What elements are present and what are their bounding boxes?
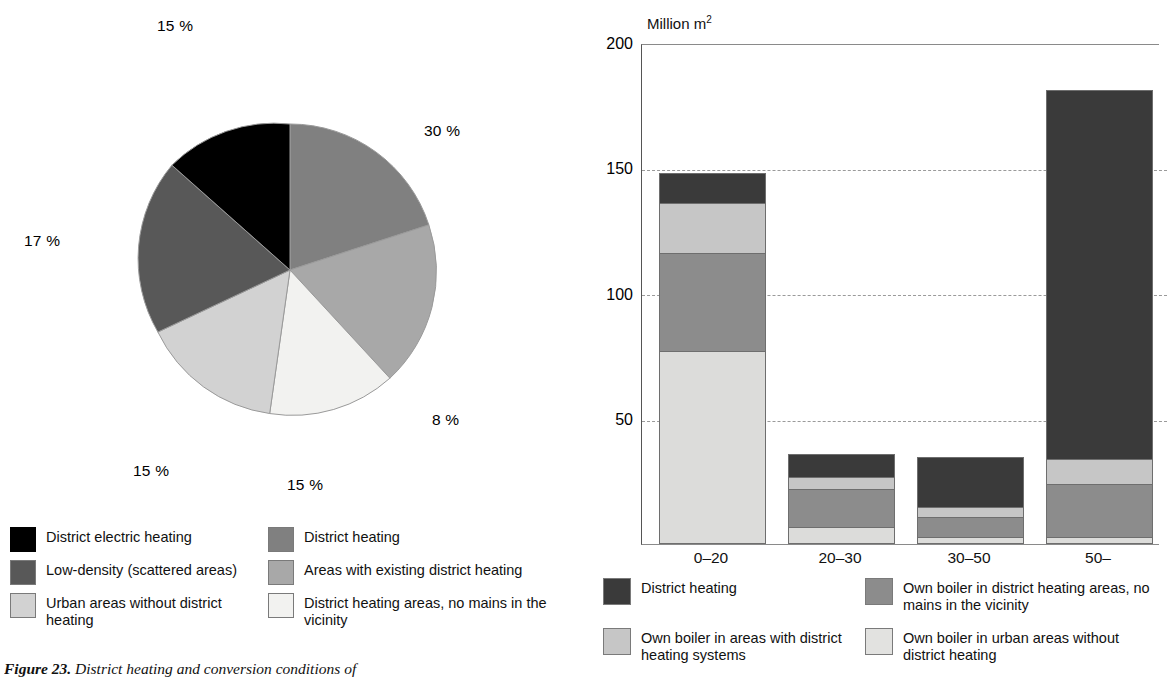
bar-segment-district-heating — [1046, 90, 1153, 459]
bar-segment-own-boiler-areas-with-dh — [917, 507, 1024, 517]
pie-chart-panel: 30 % 8 % 15 % 15 % 17 % 15 % District el… — [0, 0, 585, 680]
bar-0-20[interactable] — [659, 173, 766, 544]
bar-legend-label-own-boiler-areas-with-dh: Own boiler in areas with district heatin… — [641, 628, 865, 664]
y-tick-50: 50 — [585, 411, 633, 429]
y-axis-unit-superscript: 2 — [706, 14, 712, 25]
x-tick-20-30: 20–30 — [818, 549, 861, 567]
bar-segment-own-boiler-urban-no-dh — [1046, 537, 1153, 544]
y-axis-unit-text: Million m — [647, 15, 706, 32]
bar-segment-own-boiler-urban-no-dh — [659, 351, 766, 544]
pie-legend-item-urban-areas-without-district-heating[interactable]: Urban areas without district heating — [10, 593, 268, 629]
bar-chart-plot-area — [641, 44, 1159, 545]
bar-legend-swatch-own-boiler-urban-no-dh — [865, 628, 893, 655]
pie-legend-swatch-district-electric-heating — [10, 527, 36, 552]
pie-legend-swatch-low-density-scattered-areas — [10, 560, 36, 585]
bar-segment-own-boiler-areas-with-dh — [1046, 459, 1153, 484]
bar-legend-label-district-heating: District heating — [641, 578, 737, 597]
bar-segment-district-heating — [917, 457, 1024, 507]
bar-segment-own-boiler-urban-no-dh — [917, 537, 1024, 544]
pie-legend-swatch-district-heating-areas-no-mains — [268, 593, 294, 618]
bar-legend-label-own-boiler-urban-no-dh: Own boiler in urban areas without distri… — [903, 628, 1163, 664]
pie-label-8-percent: 8 % — [432, 411, 459, 429]
bar-legend-item-own-boiler-areas-with-dh[interactable]: Own boiler in areas with district heatin… — [603, 628, 865, 664]
pie-legend-label-urban-areas-without-district-heating: Urban areas without district heating — [46, 593, 268, 629]
pie-legend-item-areas-with-existing-district-heating[interactable]: Areas with existing district heating — [268, 560, 568, 585]
bar-segment-own-boiler-dh-areas-no-mains — [788, 489, 895, 527]
pie-legend-swatch-district-heating — [268, 527, 294, 552]
bar-legend-item-district-heating[interactable]: District heating — [603, 578, 865, 614]
bar-legend: District heating Own boiler in district … — [603, 578, 1163, 664]
pie-label-17-percent: 17 % — [24, 232, 60, 250]
pie-legend: District electric heating District heati… — [10, 527, 570, 629]
pie-legend-label-district-heating: District heating — [304, 527, 400, 546]
bar-legend-item-own-boiler-urban-no-dh[interactable]: Own boiler in urban areas without distri… — [865, 628, 1163, 664]
bar-30-50[interactable] — [917, 457, 1024, 544]
page-top-crop-artifact — [585, 0, 1167, 7]
y-tick-150: 150 — [585, 160, 633, 178]
x-tick-0-20: 0–20 — [694, 549, 728, 567]
pie-legend-item-district-heating-areas-no-mains[interactable]: District heating areas, no mains in the … — [268, 593, 568, 629]
pie-label-15-percent-electric: 15 % — [157, 17, 193, 35]
figure-caption-number: Figure 23. — [4, 660, 71, 677]
pie-label-30-percent: 30 % — [424, 122, 460, 140]
bar-segment-district-heating — [788, 454, 895, 477]
pie-legend-swatch-urban-areas-without-district-heating — [10, 593, 36, 618]
pie-legend-item-district-heating[interactable]: District heating — [268, 527, 568, 552]
y-tick-200: 200 — [585, 35, 633, 53]
bar-legend-swatch-district-heating — [603, 578, 631, 605]
bar-segment-district-heating — [659, 173, 766, 203]
pie-label-15-percent-urban: 15 % — [133, 462, 169, 480]
pie-chart: 30 % 8 % 15 % 15 % 17 % 15 % — [0, 0, 585, 520]
pie-chart-svg — [0, 0, 585, 520]
bar-20-30[interactable] — [788, 454, 895, 544]
pie-legend-label-district-heating-areas-no-mains: District heating areas, no mains in the … — [304, 593, 568, 629]
bar-segment-own-boiler-dh-areas-no-mains — [659, 253, 766, 351]
pie-legend-item-district-electric-heating[interactable]: District electric heating — [10, 527, 268, 552]
bar-segment-own-boiler-areas-with-dh — [788, 477, 895, 489]
x-tick-50-plus: 50– — [1085, 549, 1111, 567]
pie-legend-swatch-areas-with-existing-district-heating — [268, 560, 294, 585]
pie-legend-label-areas-with-existing-district-heating: Areas with existing district heating — [304, 560, 522, 579]
x-tick-30-50: 30–50 — [947, 549, 990, 567]
bar-segment-own-boiler-dh-areas-no-mains — [917, 517, 1024, 537]
bar-segment-own-boiler-urban-no-dh — [788, 527, 895, 544]
bar-legend-swatch-own-boiler-areas-with-dh — [603, 628, 631, 655]
bar-50-plus[interactable] — [1046, 90, 1153, 544]
pie-label-15-percent-no-mains: 15 % — [287, 476, 323, 494]
pie-legend-label-district-electric-heating: District electric heating — [46, 527, 192, 546]
y-axis-unit-label: Million m2 — [647, 14, 712, 32]
bar-legend-item-own-boiler-dh-areas-no-mains[interactable]: Own boiler in district heating areas, no… — [865, 578, 1163, 614]
pie-legend-label-low-density-scattered-areas: Low-density (scattered areas) — [46, 560, 237, 579]
pie-legend-item-low-density-scattered-areas[interactable]: Low-density (scattered areas) — [10, 560, 268, 585]
bar-legend-swatch-own-boiler-dh-areas-no-mains — [865, 578, 893, 605]
figure-caption-text: District heating and conversion conditio… — [75, 660, 356, 677]
bar-segment-own-boiler-dh-areas-no-mains — [1046, 484, 1153, 537]
bar-chart-panel: Million m2 200 150 100 50 — [585, 0, 1167, 680]
bar-legend-label-own-boiler-dh-areas-no-mains: Own boiler in district heating areas, no… — [903, 578, 1163, 614]
bar-segment-own-boiler-areas-with-dh — [659, 203, 766, 253]
y-tick-100: 100 — [585, 286, 633, 304]
figure-caption: Figure 23. District heating and conversi… — [4, 660, 474, 678]
